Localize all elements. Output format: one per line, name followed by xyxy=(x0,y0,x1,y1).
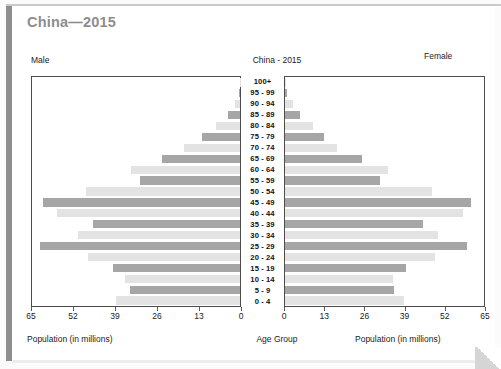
bar-row xyxy=(32,175,240,186)
bar-row xyxy=(285,77,484,88)
bar-row xyxy=(285,142,484,153)
bar-row xyxy=(32,77,240,88)
age-group-label: 95 - 99 xyxy=(241,87,284,98)
age-group-column: 100+95 - 9990 - 9485 - 8980 - 8475 - 797… xyxy=(241,76,284,307)
age-group-row: 35 - 39 xyxy=(241,219,284,230)
bar-female-85-89 xyxy=(285,111,300,119)
bar-row xyxy=(285,230,484,241)
age-group-row: 30 - 34 xyxy=(241,230,284,241)
age-group-row: 20 - 24 xyxy=(241,252,284,263)
bar-row xyxy=(32,99,240,110)
bar-row xyxy=(285,164,484,175)
age-group-row: 60 - 64 xyxy=(241,164,284,175)
age-group-label: 25 - 29 xyxy=(241,241,284,252)
bar-female-70-74 xyxy=(285,144,337,152)
page-root: China—2015 Male Female China - 2015 100+… xyxy=(0,0,501,369)
bar-row xyxy=(285,284,484,295)
age-group-label: 20 - 24 xyxy=(241,252,284,263)
age-group-label: 15 - 19 xyxy=(241,263,284,274)
bar-female-20-24 xyxy=(285,253,435,261)
axis-tick-label: 0 xyxy=(239,311,244,321)
bar-row xyxy=(32,164,240,175)
bar-row xyxy=(32,252,240,263)
axis-tick-label: 65 xyxy=(26,311,35,321)
bar-male-25-29 xyxy=(40,242,240,250)
bar-female-25-29 xyxy=(285,242,467,250)
axis-tick-label: 26 xyxy=(152,311,161,321)
bar-row xyxy=(32,230,240,241)
bar-row xyxy=(32,153,240,164)
bar-row xyxy=(285,262,484,273)
bar-row xyxy=(32,197,240,208)
age-group-label: 0 - 4 xyxy=(241,296,284,307)
bar-row xyxy=(32,219,240,230)
bar-female-95-99 xyxy=(285,89,287,97)
bar-female-60-64 xyxy=(285,166,388,174)
bar-row xyxy=(32,132,240,143)
bar-row xyxy=(285,121,484,132)
age-group-label: 70 - 74 xyxy=(241,142,284,153)
bar-row xyxy=(285,153,484,164)
age-group-label: 65 - 69 xyxy=(241,153,284,164)
axis-tick-label: 39 xyxy=(110,311,119,321)
bar-row xyxy=(32,186,240,197)
axis-tick-label: 26 xyxy=(360,311,369,321)
bar-row xyxy=(285,99,484,110)
bar-male-20-24 xyxy=(88,253,240,261)
age-group-label: 55 - 59 xyxy=(241,175,284,186)
age-group-label: 40 - 44 xyxy=(241,208,284,219)
age-group-row: 40 - 44 xyxy=(241,208,284,219)
bar-female-5-9 xyxy=(285,286,394,294)
bar-female-65-69 xyxy=(285,155,362,163)
age-group-rows: 100+95 - 9990 - 9485 - 8980 - 8475 - 797… xyxy=(241,76,284,307)
female-x-axis: 01326395265 xyxy=(284,307,485,325)
bar-male-85-89 xyxy=(228,111,240,119)
bar-male-95-99 xyxy=(239,89,240,97)
bar-row xyxy=(285,295,484,306)
bar-female-45-49 xyxy=(285,198,471,206)
axis-tick-label: 52 xyxy=(68,311,77,321)
age-group-label: 100+ xyxy=(241,76,284,87)
age-group-label: 5 - 9 xyxy=(241,285,284,296)
bar-female-90-94 xyxy=(285,100,293,108)
age-group-row: 0 - 4 xyxy=(241,296,284,307)
bar-female-15-19 xyxy=(285,264,406,272)
age-group-row: 100+ xyxy=(241,76,284,87)
bar-row xyxy=(285,88,484,99)
bar-male-70-74 xyxy=(184,144,240,152)
age-group-label: 60 - 64 xyxy=(241,164,284,175)
bar-male-50-54 xyxy=(86,187,240,195)
bar-row xyxy=(32,208,240,219)
bar-male-90-94 xyxy=(235,100,240,108)
bar-row xyxy=(285,273,484,284)
bar-row xyxy=(285,208,484,219)
bar-female-10-14 xyxy=(285,275,393,283)
male-plot-area xyxy=(31,76,241,307)
female-axis-title: Population (in millions) xyxy=(355,334,441,344)
age-group-label: 30 - 34 xyxy=(241,230,284,241)
bar-male-55-59 xyxy=(140,176,240,184)
bar-male-65-69 xyxy=(162,155,240,163)
bar-female-80-84 xyxy=(285,122,313,130)
bar-male-5-9 xyxy=(130,286,240,294)
bar-male-60-64 xyxy=(131,166,240,174)
bar-row xyxy=(285,186,484,197)
age-group-row: 10 - 14 xyxy=(241,274,284,285)
bar-row xyxy=(285,197,484,208)
bar-row xyxy=(32,142,240,153)
bar-male-80-84 xyxy=(216,122,240,130)
female-plot-area xyxy=(284,76,485,307)
bar-male-35-39 xyxy=(93,220,240,228)
age-group-row: 50 - 54 xyxy=(241,186,284,197)
bar-male-0-4 xyxy=(116,296,240,304)
female-bar-rows xyxy=(285,77,484,306)
bar-female-75-79 xyxy=(285,133,324,141)
female-side-label: Female xyxy=(424,51,452,61)
age-group-label: 10 - 14 xyxy=(241,274,284,285)
bar-male-45-49 xyxy=(43,198,240,206)
bar-row xyxy=(285,252,484,263)
bar-female-30-34 xyxy=(285,231,438,239)
bar-row xyxy=(32,295,240,306)
bar-male-30-34 xyxy=(78,231,240,239)
bar-row xyxy=(32,262,240,273)
